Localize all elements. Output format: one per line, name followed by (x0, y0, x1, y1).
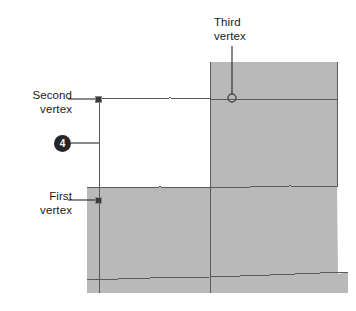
label-second-vertex-line1: Second (2, 89, 72, 103)
label-third-vertex-line2: vertex (214, 30, 284, 44)
label-second-vertex: Second vertex (2, 89, 72, 116)
shaded-regions (87, 62, 348, 293)
vertex-diagram-graphic (0, 0, 356, 311)
label-third-vertex: Third vertex (214, 16, 284, 43)
second-vertex-marker[interactable] (96, 97, 102, 103)
leader-lines (68, 46, 232, 200)
label-third-vertex-line1: Third (214, 16, 284, 30)
label-second-vertex-line2: vertex (2, 103, 72, 117)
diagram-canvas: Second vertex First vertex Third vertex … (0, 0, 356, 311)
label-first-vertex-line2: vertex (2, 204, 72, 218)
label-first-vertex: First vertex (2, 190, 72, 217)
upper-right-shape (210, 62, 337, 187)
label-first-vertex-line1: First (2, 190, 72, 204)
callout-badge-4: 4 (54, 135, 71, 152)
first-vertex-marker[interactable] (96, 198, 102, 204)
